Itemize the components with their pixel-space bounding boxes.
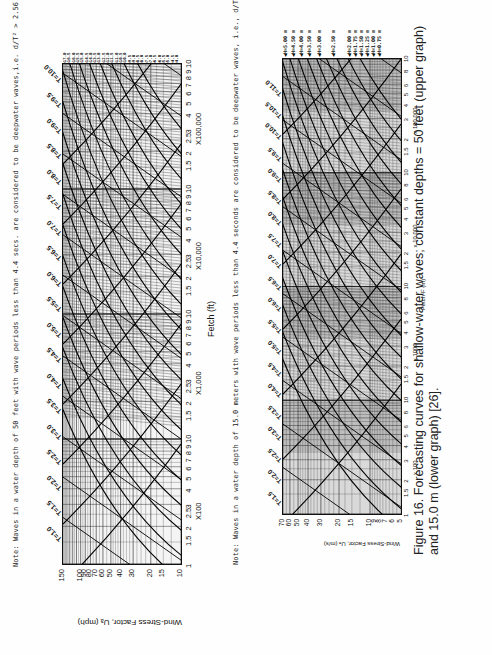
lower-y-axis-title: Wind-Stress Factor, Uₐ (m/s): [324, 541, 400, 547]
upper-x-tick: 9: [184, 320, 193, 324]
upper-x-tick: 8: [184, 326, 193, 330]
lower-period-label: T=6.5: [266, 275, 283, 292]
lower-height-label: ◀H=3.00 m: [316, 30, 322, 57]
upper-period-label: T=1.5: [45, 500, 63, 518]
upper-y-tick: 20: [145, 569, 154, 591]
lower-y-tick: 40: [303, 519, 310, 541]
lower-period-label: T=2.5: [266, 447, 283, 464]
lower-x-tick: 1: [403, 514, 409, 517]
lower-y-tick: 60: [285, 519, 292, 541]
upper-period-label: T=8.0: [45, 168, 63, 186]
upper-period-label: T=6.5: [45, 245, 63, 263]
upper-x-tick: 2.5: [184, 133, 193, 143]
upper-period-label: T=8.5: [45, 143, 63, 161]
upper-y-tick: 40: [115, 569, 124, 591]
upper-x-tick: 5: [184, 101, 193, 105]
lower-x-tick: 2: [403, 252, 409, 255]
lower-period-label: T=8.0: [266, 211, 283, 228]
lower-x-tick: 1.5: [403, 261, 409, 269]
upper-x-tick: 3: [184, 254, 193, 258]
upper-x-tick: 1.5: [184, 411, 193, 421]
upper-x-tick: 7: [184, 333, 193, 337]
lower-x-tick: 4: [403, 104, 409, 107]
upper-x-multiplier: X100: [194, 502, 203, 520]
upper-period-label: T=1.0: [45, 525, 63, 543]
upper-x-tick: 1.5: [184, 536, 193, 546]
lower-chart-plot-area: [282, 58, 402, 515]
upper-x-axis-title: Fetch (ft): [206, 301, 216, 337]
lower-x-tick: 8: [403, 297, 409, 300]
upper-period-label: T=4.5: [45, 347, 63, 365]
lower-x-tick: 4: [403, 218, 409, 221]
upper-x-tick: 9: [184, 445, 193, 449]
upper-period-label: T=7.5: [45, 194, 63, 212]
lower-period-label: T=5.5: [266, 318, 283, 335]
lower-x-tick: 1.5: [403, 489, 409, 497]
lower-period-label: T=8.5: [266, 189, 283, 206]
lower-y-tick: 5: [396, 519, 403, 541]
lower-x-tick: 6: [403, 425, 409, 428]
upper-x-tick: 2: [184, 276, 193, 280]
figure-label: Figure 16.: [412, 499, 426, 555]
upper-x-tick: 4: [184, 114, 193, 118]
lower-period-label: T=4.5: [266, 361, 283, 378]
lower-period-label: T=3.5: [266, 404, 283, 421]
upper-period-label: T=2.0: [45, 474, 63, 492]
lower-period-label: T=5.0: [266, 340, 283, 357]
lower-height-label: ◀H=5.00 m: [282, 30, 288, 57]
upper-x-tick: 3: [184, 379, 193, 383]
lower-x-tick: 2: [403, 479, 409, 482]
lower-period-label: T=11.0: [264, 79, 283, 98]
upper-y-tick: 30: [127, 569, 136, 591]
upper-x-tick: 2: [184, 151, 193, 155]
lower-x-tick: 3: [403, 346, 409, 349]
lower-height-label: ◀H=4.00 m: [298, 30, 304, 57]
upper-y-tick: 50: [105, 569, 114, 591]
lower-period-label: T=9.5: [266, 146, 283, 163]
upper-period-label: T=4.0: [45, 372, 63, 390]
upper-x-tick: 2.5: [184, 508, 193, 518]
upper-x-tick: 4: [184, 239, 193, 243]
upper-period-label: T=6.0: [45, 270, 63, 288]
lower-x-tick: 5: [403, 207, 409, 210]
upper-x-tick: 3: [184, 129, 193, 133]
lower-y-tick: 50: [293, 519, 300, 541]
upper-x-tick: 6: [184, 92, 193, 96]
lower-x-tick: 10: [403, 283, 409, 290]
lower-height-label: ◀H=3.50 m: [306, 30, 312, 57]
lower-y-tick: 30: [316, 519, 323, 541]
upper-x-tick: 10: [184, 310, 193, 318]
upper-x-tick: 2.5: [184, 383, 193, 393]
upper-period-label: T=2.5: [45, 449, 63, 467]
upper-x-multiplier: X100,000: [194, 113, 203, 145]
upper-x-multiplier: X1,000: [194, 371, 203, 395]
upper-x-tick: 3: [184, 504, 193, 508]
lower-x-tick: 6: [403, 311, 409, 314]
lower-period-label: T=7.5: [266, 232, 283, 249]
upper-x-tick: 6: [184, 217, 193, 221]
lower-x-tick: 8: [403, 183, 409, 186]
upper-x-tick: 2: [184, 401, 193, 405]
upper-y-tick: 150: [57, 569, 66, 591]
lower-x-tick: 4: [403, 445, 409, 448]
upper-x-tick: 10: [184, 435, 193, 443]
lower-x-tick: 2: [403, 138, 409, 141]
lower-x-tick: 3: [403, 232, 409, 235]
upper-period-label: T=3.5: [45, 398, 63, 416]
lower-x-tick: 8: [403, 70, 409, 73]
lower-period-label: T=3.0: [266, 426, 283, 443]
upper-x-tick: 8: [184, 451, 193, 455]
lower-period-label: T=10.0: [264, 122, 283, 141]
lower-x-tick: 5: [403, 320, 409, 323]
upper-x-tick: 7: [184, 83, 193, 87]
lower-height-label: ◀H=4.50 m: [290, 30, 296, 57]
upper-x-tick: 9: [184, 195, 193, 199]
lower-y-tick: 15: [347, 519, 354, 541]
lower-period-label: T=7.0: [266, 254, 283, 271]
upper-y-tick: 15: [157, 569, 166, 591]
lower-height-label: ◀H=2.50 m: [330, 30, 336, 57]
figure-caption: Figure 16. Forecasting curves for shallo…: [412, 15, 442, 555]
lower-period-label: T=9.0: [266, 168, 283, 185]
lower-x-tick: 2: [403, 366, 409, 369]
lower-note: Note: Waves in a water depth of 15.0 met…: [232, 0, 240, 565]
